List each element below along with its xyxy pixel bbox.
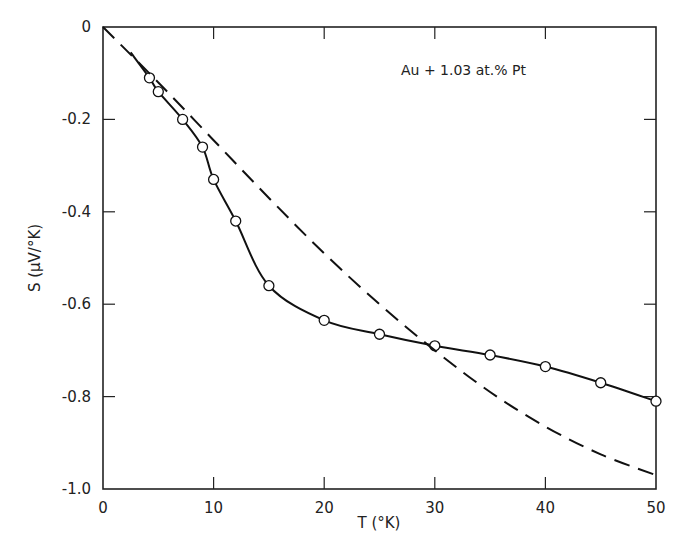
data-point-circle: [375, 329, 385, 339]
x-tick-label: 20: [315, 499, 334, 517]
x-tick-label: 0: [98, 499, 108, 517]
chart: 010203040500-0.2-0.4-0.6-0.8-1.0 Au + 1.…: [0, 0, 687, 559]
y-tick-label: -0.2: [62, 110, 91, 128]
data-point-circle: [264, 281, 274, 291]
x-tick-label: 50: [646, 499, 665, 517]
y-axis-label: S (μV/°K): [26, 224, 44, 292]
data-point-circle: [198, 142, 208, 152]
data-point-circle: [231, 216, 241, 226]
data-point-circle: [540, 362, 550, 372]
y-tick-label: -0.8: [62, 388, 91, 406]
y-tick-label: 0: [81, 18, 91, 36]
y-tick-label: -1.0: [62, 480, 91, 498]
series-layer: [103, 27, 661, 475]
x-tick-label: 10: [204, 499, 223, 517]
y-tick-label: -0.4: [62, 203, 91, 221]
theory-dashed-curve: [103, 27, 656, 475]
data-point-circle: [485, 350, 495, 360]
data-point-circle: [153, 87, 163, 97]
data-point-circle: [209, 174, 219, 184]
data-point-circle: [178, 114, 188, 124]
x-tick-label: 40: [536, 499, 555, 517]
data-point-circle: [319, 315, 329, 325]
x-tick-label: 30: [425, 499, 444, 517]
data-point-circle: [651, 396, 661, 406]
chart-annotation: Au + 1.03 at.% Pt: [401, 62, 526, 78]
measured-curve: [131, 52, 656, 401]
data-point-circle: [596, 378, 606, 388]
y-tick-label: -0.6: [62, 295, 91, 313]
x-axis-label: T (°K): [357, 514, 401, 532]
plot-frame: [103, 27, 656, 489]
